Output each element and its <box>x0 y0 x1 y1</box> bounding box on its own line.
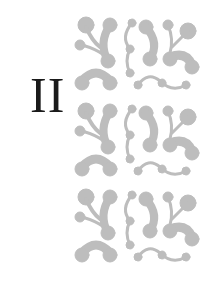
ornament-icon <box>74 15 200 273</box>
chapter-numeral: II <box>30 70 65 120</box>
decorative-ornament-pattern <box>74 15 200 273</box>
